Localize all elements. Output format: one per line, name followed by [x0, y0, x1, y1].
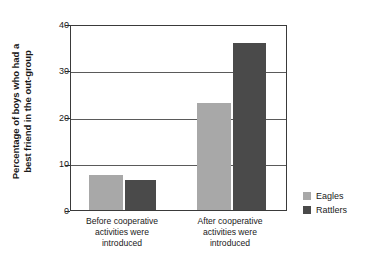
plot-area [70, 25, 287, 211]
y-tick-mark-0 [65, 211, 70, 212]
category-label-after-line-2: activities were [160, 227, 300, 238]
bar-rattlers-before [125, 180, 156, 210]
category-label-after-line-3: introduced [160, 238, 300, 249]
legend-swatch-eagles-icon [303, 192, 311, 200]
y-axis-title: Percentage of boys who had a best friend… [0, 0, 44, 222]
y-axis-title-line-2: best friend in the out-group [22, 43, 34, 178]
bar-rattlers-after [233, 43, 266, 210]
y-axis-title-line-1: Percentage of boys who had a [11, 43, 23, 178]
bar-eagles-before [89, 175, 123, 210]
legend-item-eagles: Eagles [303, 189, 347, 203]
bar-chart-figure: Percentage of boys who had a best friend… [0, 0, 368, 272]
bar-eagles-after [197, 103, 231, 210]
chart-legend: Eagles Rattlers [303, 189, 347, 217]
legend-label-rattlers: Rattlers [316, 206, 347, 215]
legend-swatch-rattlers-icon [303, 206, 311, 214]
category-label-after-line-1: After cooperative [160, 216, 300, 227]
legend-item-rattlers: Rattlers [303, 203, 347, 217]
legend-label-eagles: Eagles [316, 192, 344, 201]
category-label-after: After cooperative activities were introd… [160, 216, 300, 249]
